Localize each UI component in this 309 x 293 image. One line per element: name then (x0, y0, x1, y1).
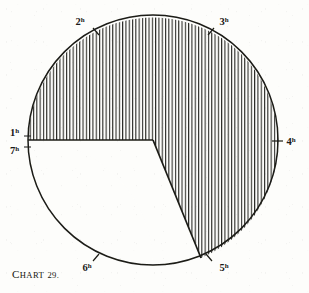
hour-label-4h: 4h (286, 136, 295, 148)
hour-label-5h: 5h (219, 262, 228, 274)
tick-mark-5h (206, 254, 212, 261)
chart-figure: 1h 7h 2h 3h 4h 5h 6h CHART 29. (0, 0, 309, 293)
chart-caption: CHART 29. (12, 268, 59, 280)
hour-label-2h: 2h (75, 16, 84, 28)
hour-label-3h: 3h (219, 16, 228, 28)
hour-label-6h: 6h (82, 262, 91, 274)
tick-mark-6h (93, 254, 99, 261)
chart-29-svg: 1h 7h 2h 3h 4h 5h 6h CHART 29. (0, 0, 309, 293)
hour-label-7h: 7h (10, 145, 19, 157)
hour-label-1h: 1h (10, 127, 19, 139)
pie-slice-unshaded (28, 140, 153, 265)
chart-plot-area (24, 15, 283, 265)
